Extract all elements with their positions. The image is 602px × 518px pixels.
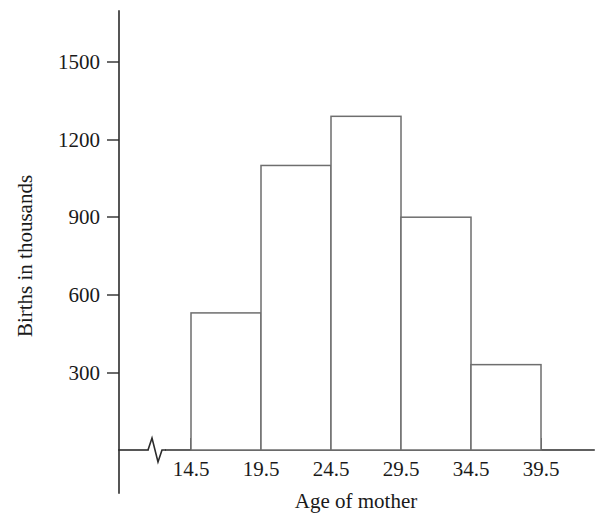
y-tick-label-1200: 1200 xyxy=(58,128,100,152)
x-tick-label-29-5: 29.5 xyxy=(383,457,420,481)
y-tick-label-600: 600 xyxy=(69,283,101,307)
bar-19-5-24-5 xyxy=(261,165,331,450)
bar-14-5-19-5 xyxy=(191,313,261,450)
y-tick-label-300: 300 xyxy=(69,361,101,385)
x-axis-title: Age of mother xyxy=(295,489,417,513)
axis-break-icon xyxy=(148,438,166,462)
y-tick-label-1500: 1500 xyxy=(58,50,100,74)
x-tick-label-39-5: 39.5 xyxy=(523,457,560,481)
x-tick-label-19-5: 19.5 xyxy=(243,457,280,481)
x-tick-label-24-5: 24.5 xyxy=(313,457,350,481)
bar-34-5-39-5 xyxy=(471,365,541,450)
histogram-svg: 1500 1200 900 600 300 Births in thousand… xyxy=(0,0,602,518)
bar-29-5-34-5 xyxy=(401,217,471,450)
y-tick-label-900: 900 xyxy=(69,205,101,229)
histogram-chart: 1500 1200 900 600 300 Births in thousand… xyxy=(0,0,602,518)
bar-24-5-29-5 xyxy=(331,116,401,450)
y-axis-title: Births in thousands xyxy=(13,175,37,337)
x-tick-label-14-5: 14.5 xyxy=(173,457,210,481)
x-tick-label-34-5: 34.5 xyxy=(453,457,490,481)
